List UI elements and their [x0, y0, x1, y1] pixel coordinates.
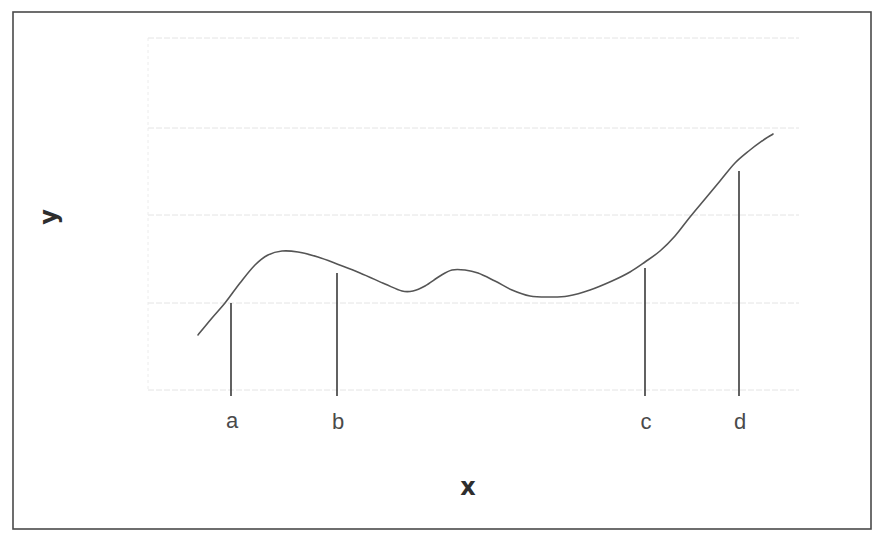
marker-c: c: [641, 268, 652, 434]
x-markers: abcd: [226, 171, 746, 434]
diagram-frame: [13, 12, 871, 529]
gridlines: [148, 38, 799, 390]
marker-d: d: [734, 171, 746, 434]
marker-label: b: [332, 409, 344, 434]
x-axis-label: x: [460, 473, 476, 501]
marker-label: c: [641, 409, 652, 434]
function-curve: [198, 134, 773, 335]
marker-label: d: [734, 409, 746, 434]
marker-a: a: [226, 303, 239, 433]
marker-label: a: [226, 408, 239, 433]
curve-diagram: abcd x y: [0, 0, 881, 542]
y-axis-label: y: [35, 209, 63, 225]
marker-b: b: [332, 273, 344, 434]
